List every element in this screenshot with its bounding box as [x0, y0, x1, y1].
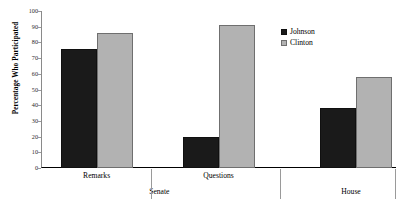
x-axis-group-label-senate: Senate — [109, 187, 209, 197]
x-axis-group-label-house: House — [301, 187, 401, 197]
plot-area: 0102030405060708090100 — [41, 11, 396, 168]
y-tick-label: 40 — [4, 102, 38, 108]
bar-clinton-questions — [219, 25, 255, 168]
y-tick-label: 80 — [4, 39, 38, 45]
y-tick-label: 10 — [4, 149, 38, 155]
bar-clinton-remarks — [97, 33, 133, 168]
y-tick-label: 0 — [4, 165, 38, 171]
bar-clinton-house — [356, 77, 392, 168]
legend-label: Clinton — [290, 37, 313, 48]
legend: JohnsonClinton — [281, 26, 315, 48]
x-axis-subcategory-labels: RemarksQuestions — [41, 169, 396, 185]
bar-johnson-remarks — [61, 49, 97, 168]
legend-swatch-icon — [281, 29, 287, 35]
x-axis-group-labels: SenateHouse — [41, 185, 396, 202]
x-axis-label-remarks: Remarks — [47, 171, 147, 181]
legend-item-johnson: Johnson — [281, 26, 315, 37]
legend-item-clinton: Clinton — [281, 37, 315, 48]
legend-label: Johnson — [290, 26, 315, 37]
legend-swatch-icon — [281, 40, 287, 46]
y-tick-label: 60 — [4, 71, 38, 77]
bar-johnson-house — [320, 108, 356, 168]
x-axis-group-separator — [151, 169, 152, 199]
y-tick-label: 50 — [4, 87, 38, 93]
bars-layer — [41, 11, 396, 168]
x-axis-label-questions: Questions — [169, 171, 269, 181]
y-tick-label: 20 — [4, 134, 38, 140]
bar-chart: Percentage Who Participated 010203040506… — [0, 0, 412, 204]
y-tick-label: 100 — [4, 8, 38, 14]
x-axis-group-separator — [280, 169, 281, 199]
y-tick-label: 70 — [4, 55, 38, 61]
y-tick-label: 90 — [4, 24, 38, 30]
bar-johnson-questions — [183, 137, 219, 168]
y-tick-label: 30 — [4, 118, 38, 124]
x-axis-group-separator — [395, 169, 396, 199]
